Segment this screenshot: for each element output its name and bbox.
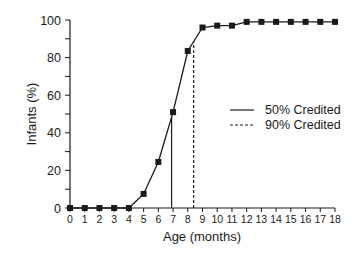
x-tick-label: 9 (200, 213, 206, 225)
line-chart: 0204060801000123456789101112131415161718… (0, 0, 363, 257)
data-point-marker (96, 205, 102, 211)
x-tick-label: 3 (111, 213, 117, 225)
x-tick-label: 15 (285, 213, 297, 225)
reference-lines (172, 42, 194, 208)
x-tick-label: 4 (126, 213, 132, 225)
data-point-marker (170, 109, 176, 115)
data-point-marker (244, 19, 250, 25)
x-tick-label: 0 (67, 213, 73, 225)
data-point-marker (82, 205, 88, 211)
x-tick-label: 17 (314, 213, 326, 225)
data-point-marker (155, 159, 161, 165)
data-point-marker (288, 19, 294, 25)
x-tick-label: 1 (82, 213, 88, 225)
y-tick-label: 60 (47, 89, 61, 103)
x-tick-label: 10 (211, 213, 223, 225)
data-point-marker (317, 19, 323, 25)
x-tick-label: 11 (226, 213, 237, 225)
y-axis-label: Infants (%) (24, 83, 39, 146)
x-tick-label: 2 (97, 213, 103, 225)
y-tick-label: 100 (40, 14, 61, 28)
chart-container: 0204060801000123456789101112131415161718… (0, 0, 363, 257)
data-point-marker (258, 19, 264, 25)
x-tick-label: 14 (270, 213, 282, 225)
data-point-marker (303, 19, 309, 25)
y-tick-label: 80 (47, 51, 61, 65)
x-tick-label: 7 (170, 213, 176, 225)
x-axis-label: Age (months) (163, 229, 241, 244)
data-point-marker (185, 48, 191, 54)
x-tick-label: 18 (329, 213, 341, 225)
data-point-marker (111, 205, 117, 211)
data-point-marker (229, 23, 235, 29)
data-point-marker (214, 23, 220, 29)
x-tick-label: 5 (141, 213, 147, 225)
data-point-marker (273, 19, 279, 25)
x-tick-label: 6 (155, 213, 161, 225)
legend-label-50: 50% Credited (265, 103, 341, 117)
x-tick-label: 16 (300, 213, 312, 225)
data-point-marker (200, 25, 206, 31)
data-point-marker (126, 205, 132, 211)
data-point-marker (332, 19, 338, 25)
legend: 50% Credited 90% Credited (230, 103, 341, 132)
x-tick-label: 12 (241, 213, 253, 225)
x-tick-label: 13 (256, 213, 268, 225)
y-tick-label: 20 (47, 164, 61, 178)
data-point-marker (67, 205, 73, 211)
legend-label-90: 90% Credited (265, 118, 341, 132)
x-tick-label: 8 (185, 213, 191, 225)
data-point-marker (141, 191, 147, 197)
y-tick-label: 40 (47, 126, 61, 140)
y-tick-label: 0 (54, 202, 61, 216)
